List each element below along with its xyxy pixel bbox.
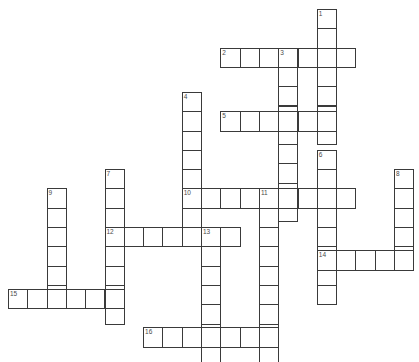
grid-cell[interactable]: 5 bbox=[220, 111, 240, 131]
grid-cell[interactable] bbox=[259, 285, 279, 305]
grid-cell[interactable]: 2 bbox=[220, 48, 240, 68]
grid-cell[interactable] bbox=[317, 285, 337, 305]
grid-cell[interactable] bbox=[278, 67, 298, 87]
cell-number-9: 9 bbox=[49, 189, 53, 196]
grid-cell[interactable]: 6 bbox=[317, 150, 337, 170]
grid-cell[interactable]: 15 bbox=[8, 289, 28, 309]
grid-cell[interactable]: 11 bbox=[259, 188, 279, 208]
grid-cell[interactable] bbox=[317, 111, 337, 131]
grid-cell[interactable] bbox=[259, 246, 279, 266]
grid-cell[interactable] bbox=[278, 144, 298, 164]
grid-cell[interactable] bbox=[240, 111, 260, 131]
grid-cell[interactable] bbox=[259, 327, 279, 347]
grid-cell[interactable] bbox=[317, 28, 337, 48]
grid-cell[interactable]: 10 bbox=[182, 188, 202, 208]
grid-cell[interactable] bbox=[375, 250, 395, 270]
grid-cell[interactable] bbox=[47, 227, 67, 247]
cell-number-3: 3 bbox=[280, 49, 284, 56]
grid-cell[interactable] bbox=[278, 86, 298, 106]
grid-cell[interactable] bbox=[240, 188, 260, 208]
grid-cell[interactable] bbox=[278, 188, 298, 208]
grid-cell[interactable] bbox=[85, 289, 105, 309]
grid-cell[interactable] bbox=[259, 208, 279, 228]
grid-cell[interactable] bbox=[201, 304, 221, 324]
grid-cell[interactable] bbox=[220, 188, 240, 208]
grid-cell[interactable] bbox=[298, 188, 318, 208]
grid-cell[interactable] bbox=[201, 327, 221, 347]
grid-cell[interactable] bbox=[259, 48, 279, 68]
grid-cell[interactable] bbox=[355, 250, 375, 270]
grid-cell[interactable] bbox=[336, 250, 356, 270]
grid-cell[interactable] bbox=[182, 150, 202, 170]
grid-cell[interactable]: 4 bbox=[182, 92, 202, 112]
grid-cell[interactable] bbox=[259, 227, 279, 247]
grid-cell[interactable] bbox=[298, 48, 318, 68]
grid-cell[interactable] bbox=[47, 266, 67, 286]
grid-cell[interactable] bbox=[47, 289, 67, 309]
crossword-grid[interactable]: 12341056712891113141516 bbox=[0, 0, 419, 362]
grid-cell[interactable] bbox=[240, 327, 260, 347]
grid-cell[interactable] bbox=[317, 48, 337, 68]
grid-cell[interactable] bbox=[278, 163, 298, 183]
crossword-puzzle: 12341056712891113141516 bbox=[0, 0, 419, 362]
grid-cell[interactable] bbox=[162, 227, 182, 247]
grid-cell[interactable] bbox=[317, 227, 337, 247]
grid-cell[interactable] bbox=[201, 246, 221, 266]
grid-cell[interactable]: 16 bbox=[143, 327, 163, 347]
grid-cell[interactable] bbox=[394, 250, 414, 270]
grid-cell[interactable] bbox=[336, 48, 356, 68]
grid-cell[interactable] bbox=[182, 111, 202, 131]
grid-cell[interactable] bbox=[105, 289, 125, 309]
grid-cell[interactable] bbox=[298, 111, 318, 131]
grid-cell[interactable] bbox=[240, 48, 260, 68]
grid-cell[interactable]: 7 bbox=[105, 169, 125, 189]
grid-cell[interactable] bbox=[259, 266, 279, 286]
grid-cell[interactable] bbox=[317, 67, 337, 87]
grid-cell[interactable] bbox=[162, 327, 182, 347]
grid-cell[interactable] bbox=[66, 289, 86, 309]
grid-cell[interactable] bbox=[259, 304, 279, 324]
grid-cell[interactable] bbox=[143, 227, 163, 247]
grid-cell[interactable] bbox=[317, 169, 337, 189]
grid-cell[interactable] bbox=[182, 227, 202, 247]
cell-number-2: 2 bbox=[222, 49, 226, 56]
cell-number-14: 14 bbox=[319, 251, 326, 258]
grid-cell[interactable]: 9 bbox=[47, 188, 67, 208]
grid-cell[interactable]: 12 bbox=[105, 227, 125, 247]
grid-cell[interactable] bbox=[105, 246, 125, 266]
grid-cell[interactable] bbox=[47, 246, 67, 266]
grid-cell[interactable]: 13 bbox=[201, 227, 221, 247]
grid-cell[interactable]: 3 bbox=[278, 48, 298, 68]
grid-cell[interactable]: 1 bbox=[317, 9, 337, 29]
grid-cell[interactable] bbox=[220, 227, 240, 247]
grid-cell[interactable] bbox=[278, 111, 298, 131]
cell-number-1: 1 bbox=[319, 10, 323, 17]
grid-cell[interactable] bbox=[394, 208, 414, 228]
grid-cell[interactable] bbox=[394, 188, 414, 208]
grid-cell[interactable] bbox=[201, 285, 221, 305]
grid-cell[interactable] bbox=[105, 266, 125, 286]
cell-number-13: 13 bbox=[203, 228, 210, 235]
grid-cell[interactable]: 8 bbox=[394, 169, 414, 189]
grid-cell[interactable] bbox=[317, 188, 337, 208]
grid-cell[interactable] bbox=[124, 227, 144, 247]
grid-cell[interactable] bbox=[394, 227, 414, 247]
grid-cell[interactable] bbox=[336, 188, 356, 208]
grid-cell[interactable]: 14 bbox=[317, 250, 337, 270]
grid-cell[interactable] bbox=[105, 208, 125, 228]
grid-cell[interactable] bbox=[182, 169, 202, 189]
grid-cell[interactable] bbox=[182, 131, 202, 151]
grid-cell[interactable] bbox=[182, 327, 202, 347]
grid-cell[interactable] bbox=[317, 86, 337, 106]
grid-cell[interactable] bbox=[259, 111, 279, 131]
grid-cell[interactable] bbox=[317, 208, 337, 228]
grid-cell[interactable] bbox=[182, 208, 202, 228]
cell-number-15: 15 bbox=[10, 290, 17, 297]
grid-cell[interactable] bbox=[201, 266, 221, 286]
grid-cell[interactable] bbox=[47, 208, 67, 228]
cell-number-4: 4 bbox=[184, 93, 188, 100]
grid-cell[interactable] bbox=[27, 289, 47, 309]
grid-cell[interactable] bbox=[201, 188, 221, 208]
grid-cell[interactable] bbox=[105, 188, 125, 208]
grid-cell[interactable] bbox=[220, 327, 240, 347]
